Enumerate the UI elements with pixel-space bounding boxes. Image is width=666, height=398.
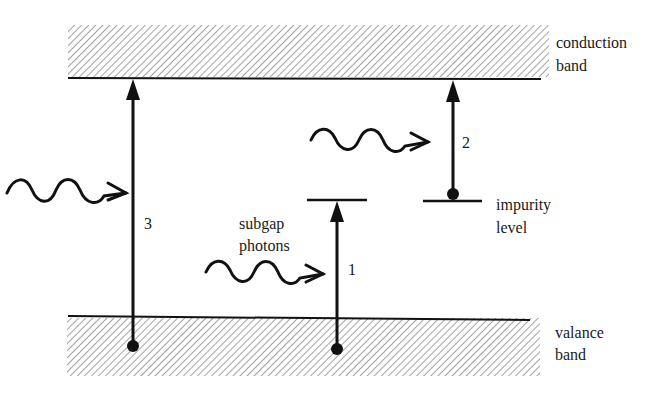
band-diagram: conduction band impurity level subgap ph… [0, 0, 666, 398]
conduction-band-label-line1: conduction [556, 33, 627, 52]
transition-3-arrow [126, 79, 140, 352]
impurity-level-label-line1: impurity [496, 195, 551, 214]
photon-wave-icon [7, 180, 126, 203]
conduction-band-label-line2: band [556, 56, 587, 75]
subgap-photons-label-line2: photons [239, 236, 290, 255]
impurity-level-label-line2: level [496, 218, 527, 237]
subgap-photons-label-line1: subgap [239, 214, 284, 233]
conduction-band [68, 25, 549, 79]
valence-band-label-line2: band [555, 345, 586, 364]
transition-1-number: 1 [348, 260, 356, 279]
photon-wave-icon [206, 261, 323, 283]
transition-2-arrow [446, 80, 460, 200]
valence-band-label-line1: valance [555, 323, 604, 342]
transition-3-number: 3 [144, 214, 152, 233]
photon-wave-icon [311, 129, 428, 151]
transition-2-number: 2 [462, 133, 470, 152]
